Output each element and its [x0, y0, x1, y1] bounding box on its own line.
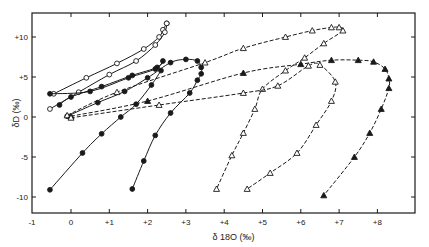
y-tick-label: +5: [19, 73, 29, 82]
x-tick-label: +1: [105, 218, 115, 227]
data-point-triangle: [321, 40, 327, 45]
data-point-circle: [141, 47, 146, 52]
data-point-circle: [88, 89, 93, 94]
x-axis: -10+1+2+3+4+5+6+7+8: [28, 13, 382, 227]
data-point-triangle: [240, 70, 246, 75]
x-tick-label: -1: [28, 218, 36, 227]
data-point-circle: [48, 187, 53, 192]
y-tick-label: -10: [16, 193, 28, 202]
data-point-circle: [115, 61, 120, 66]
data-point-triangle: [367, 130, 373, 135]
data-point-circle: [199, 65, 204, 70]
data-point-circle: [99, 131, 104, 136]
data-point-circle: [99, 84, 104, 89]
data-point-circle: [195, 78, 200, 83]
data-point-triangle: [214, 186, 220, 191]
x-tick-label: +4: [220, 218, 230, 227]
data-point-circle: [153, 133, 158, 138]
data-point-triangle: [240, 130, 246, 135]
data-point-triangle: [386, 85, 392, 90]
data-point-circle: [107, 72, 112, 77]
data-point-circle: [153, 43, 158, 48]
isotope-chart: -10+1+2+3+4+5+6+7+8 +10+50-5-10 δ 18O (‰…: [0, 0, 429, 247]
data-point-triangle: [202, 60, 208, 65]
data-point-circle: [145, 75, 150, 80]
x-tick-label: +2: [143, 218, 153, 227]
data-point-circle: [118, 115, 123, 120]
data-point-circle: [195, 59, 200, 64]
data-point-triangle: [267, 170, 273, 175]
data-point-triangle: [328, 24, 334, 29]
data-point-circle: [48, 107, 53, 112]
data-point-circle: [84, 75, 89, 80]
x-tick-label: +8: [373, 218, 383, 227]
series-filled-triangles: [68, 57, 392, 198]
data-point-triangle: [386, 76, 392, 81]
data-point-triangle: [378, 106, 384, 111]
y-axis-title: δD (‰): [11, 98, 21, 127]
series-line: [50, 71, 161, 190]
data-point-triangle: [328, 98, 334, 103]
data-point-circle: [141, 159, 146, 164]
data-point-circle: [164, 21, 169, 26]
data-point-triangle: [313, 122, 319, 127]
x-tick-label: +6: [296, 218, 306, 227]
x-tick-label: +5: [258, 218, 268, 227]
data-point-circle: [161, 59, 166, 64]
series-line: [50, 61, 163, 105]
data-point-circle: [187, 91, 192, 96]
data-point-circle: [57, 103, 62, 108]
data-point-circle: [134, 59, 139, 64]
y-tick-label: 0: [24, 113, 29, 122]
data-point-triangle: [244, 186, 250, 191]
data-point-circle: [162, 30, 167, 35]
x-tick-label: +3: [181, 218, 191, 227]
data-point-circle: [48, 91, 53, 96]
data-series: [48, 21, 392, 198]
data-point-circle: [80, 151, 85, 156]
data-point-circle: [168, 111, 173, 116]
series-open-triangles-lower-dashed: [68, 62, 338, 191]
data-point-circle: [159, 68, 164, 73]
data-point-circle: [130, 187, 135, 192]
data-point-circle: [130, 73, 135, 78]
data-point-circle: [199, 71, 204, 76]
x-tick-label: +7: [335, 218, 345, 227]
data-point-triangle: [275, 83, 281, 88]
series-line: [67, 27, 344, 189]
data-point-triangle: [317, 62, 323, 67]
data-point-circle: [184, 57, 189, 62]
x-tick-label: 0: [69, 218, 74, 227]
data-point-triangle: [240, 45, 246, 50]
data-point-triangle: [302, 55, 308, 60]
data-point-triangle: [229, 152, 235, 157]
data-point-circle: [168, 60, 173, 65]
series-open-triangles: [64, 24, 346, 191]
data-point-circle: [149, 83, 154, 88]
data-point-triangle: [252, 106, 258, 111]
data-point-triangle: [332, 79, 338, 84]
x-axis-title: δ 18O (‰): [212, 232, 254, 242]
y-tick-label: -5: [21, 153, 29, 162]
data-point-triangle: [321, 192, 327, 197]
data-point-circle: [69, 95, 74, 100]
y-tick-label: +10: [14, 33, 28, 42]
data-point-triangle: [282, 68, 288, 73]
